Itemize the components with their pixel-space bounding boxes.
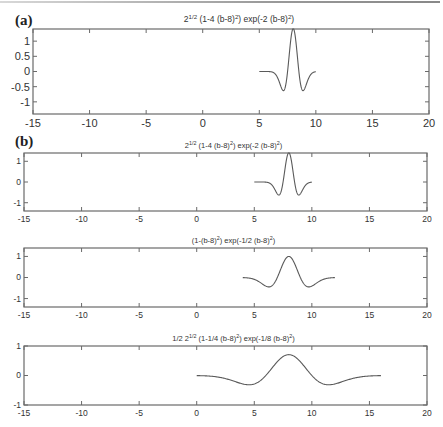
x-tick-label: 15 — [365, 214, 375, 224]
x-tick-label: 0 — [194, 310, 199, 320]
plot-b-middle: -15-10-50510152010-1(1-(b-8)2) exp(-1/2 … — [13, 235, 432, 320]
wavelet-curve — [197, 355, 381, 385]
axes-box — [24, 248, 427, 307]
axes-box — [24, 153, 427, 211]
x-tick-label: 15 — [365, 408, 375, 418]
x-tick-label: 10 — [307, 408, 317, 418]
x-tick-label: 20 — [423, 117, 435, 129]
x-tick-label: -10 — [75, 408, 88, 418]
x-tick-label: -5 — [135, 310, 143, 320]
y-tick-label: 0 — [16, 370, 21, 380]
x-tick-label: -15 — [18, 214, 31, 224]
x-tick-label: 0 — [200, 117, 206, 129]
x-tick-label: -15 — [25, 117, 41, 129]
x-tick-label: -10 — [75, 310, 88, 320]
y-tick-label: -1 — [13, 294, 21, 304]
y-tick-label: 1 — [16, 251, 21, 261]
x-tick-label: -10 — [75, 214, 88, 224]
x-tick-label: 10 — [307, 310, 317, 320]
wavelet-curve — [254, 153, 312, 195]
wavelet-curve — [259, 29, 316, 91]
axes-box — [24, 346, 427, 405]
x-tick-label: 20 — [422, 408, 432, 418]
plot-b-top: -15-10-50510152010-121/2 (1-4 (b-8)2) ex… — [13, 140, 432, 224]
x-tick-label: 5 — [256, 117, 262, 129]
y-tick-label: 0 — [24, 65, 30, 77]
x-tick-label: -15 — [18, 310, 31, 320]
plot-title: 21/2 (1-4 (b-8)2) exp(-2 (b-8)2) — [185, 140, 283, 150]
x-tick-label: 0 — [194, 408, 199, 418]
y-tick-label: -1 — [13, 198, 21, 208]
plot-b-bottom: -15-10-50510152010-11/2 21/2 (1-1/4 (b-8… — [13, 333, 432, 418]
x-tick-label: -5 — [135, 214, 143, 224]
x-tick-label: 15 — [365, 310, 375, 320]
x-tick-label: -5 — [135, 408, 143, 418]
figure-canvas: -15-10-50510152010.50-0.5-121/2 (1-4 (b-… — [0, 0, 443, 427]
wavelet-curve — [243, 256, 335, 286]
y-tick-label: -1 — [13, 400, 21, 410]
plot-a: -15-10-50510152010.50-0.5-121/2 (1-4 (b-… — [11, 13, 435, 129]
y-tick-label: 1 — [24, 35, 30, 47]
x-tick-label: 10 — [307, 214, 317, 224]
y-tick-label: -0.5 — [11, 81, 30, 93]
x-tick-label: 20 — [422, 310, 432, 320]
x-tick-label: -5 — [141, 117, 151, 129]
y-tick-label: 1 — [16, 341, 21, 351]
x-tick-label: 15 — [366, 117, 378, 129]
y-tick-label: 0 — [16, 272, 21, 282]
plot-title: 21/2 (1-4 (b-8)2) exp(-2 (b-8)2) — [184, 13, 294, 24]
y-tick-label: 1 — [16, 156, 21, 166]
x-tick-label: 5 — [252, 408, 257, 418]
x-tick-label: 5 — [252, 310, 257, 320]
axes-box — [33, 29, 429, 114]
y-tick-label: -1 — [20, 96, 30, 108]
x-tick-label: 10 — [310, 117, 322, 129]
plot-title: (1-(b-8)2) exp(-1/2 (b-8)2) — [192, 235, 276, 245]
x-tick-label: 5 — [252, 214, 257, 224]
plot-title: 1/2 21/2 (1-1/4 (b-8)2) exp(-1/8 (b-8)2) — [172, 333, 295, 343]
x-tick-label: 20 — [422, 214, 432, 224]
x-tick-label: 0 — [194, 214, 199, 224]
x-tick-label: -10 — [82, 117, 98, 129]
y-tick-label: 0 — [16, 177, 21, 187]
y-tick-label: 0.5 — [15, 50, 30, 62]
